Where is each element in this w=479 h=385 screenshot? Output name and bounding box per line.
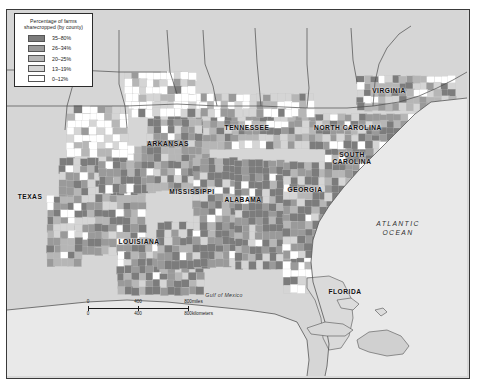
county-cell: [154, 147, 162, 155]
label-line: CAROLINA: [333, 158, 372, 165]
map-label-mississippi: MISSISSIPPI: [169, 188, 214, 195]
county-cell: [201, 108, 209, 116]
county-cell: [165, 253, 173, 262]
map-label-florida: FLORIDA: [328, 288, 361, 295]
label-line: FLORIDA: [328, 288, 361, 295]
label-line: TENNESSEE: [225, 124, 270, 131]
county-cell: [116, 209, 124, 217]
county-cell: [66, 172, 74, 180]
county-cell: [108, 224, 116, 232]
county-cell: [161, 126, 169, 134]
county-cell: [315, 134, 323, 142]
county-cell: [290, 277, 298, 285]
county-cell: [275, 261, 283, 269]
county-cell: [113, 168, 121, 177]
county-cell: [298, 221, 306, 229]
county-cell: [405, 82, 413, 90]
county-cell: [104, 114, 112, 122]
county-cell: [118, 286, 126, 294]
scale-tick-label: 400: [134, 311, 142, 316]
county-cell: [322, 134, 330, 142]
county-cell: [172, 252, 180, 261]
scale-tick-label: 0: [87, 299, 90, 304]
county-cell: [95, 202, 103, 210]
county-cell: [139, 79, 147, 87]
county-cell: [271, 94, 279, 102]
county-cell: [311, 214, 319, 222]
county-cell: [104, 135, 112, 143]
county-cell: [164, 221, 172, 230]
county-cell: [105, 128, 113, 136]
county-cell: [255, 232, 263, 240]
county-cell: [74, 259, 82, 267]
county-cell: [104, 121, 112, 129]
scale-unit-kilometers: kilometers: [192, 311, 213, 316]
label-line: LOUISIANA: [118, 238, 159, 245]
county-cell: [358, 142, 366, 150]
county-cell: [241, 261, 249, 269]
county-cell: [160, 288, 168, 296]
county-cell: [119, 185, 127, 194]
county-cell: [134, 176, 142, 185]
label-line: Gulf of Mexico: [205, 292, 242, 298]
county-cell: [87, 246, 95, 254]
county-cell: [153, 119, 161, 127]
county-cell: [130, 202, 138, 210]
county-cell: [294, 141, 302, 149]
county-cell: [174, 175, 182, 183]
county-cell: [312, 192, 320, 200]
county-cell: [95, 217, 103, 225]
county-cell: [235, 253, 243, 261]
county-cell: [67, 188, 75, 196]
county-cell: [222, 172, 230, 180]
county-cell: [130, 224, 138, 232]
legend-entry: 35–80%: [18, 33, 89, 43]
map-label-georgia: GEORGIA: [288, 186, 323, 193]
county-cell: [229, 94, 237, 102]
county-cell: [188, 147, 196, 155]
county-cell: [75, 237, 83, 245]
county-cell: [60, 210, 68, 218]
county-cell: [131, 272, 139, 280]
label-line: ARKANSAS: [147, 140, 189, 147]
county-cell: [195, 126, 203, 134]
county-cell: [53, 216, 61, 224]
county-cell: [281, 127, 289, 135]
county-cell: [167, 280, 175, 288]
county-cell: [248, 254, 256, 262]
county-cell: [164, 237, 172, 246]
county-cell: [147, 148, 155, 156]
county-cell: [249, 109, 257, 117]
county-cell: [304, 243, 312, 251]
county-cell: [175, 272, 183, 280]
county-cell: [241, 181, 249, 189]
county-cell: [345, 170, 353, 178]
county-cell: [275, 195, 283, 203]
county-cell: [290, 206, 298, 214]
county-cell: [171, 261, 179, 270]
legend-entry: 20–25%: [18, 54, 89, 64]
county-cell: [325, 155, 333, 163]
county-cell: [214, 101, 222, 109]
county-cell: [262, 181, 270, 189]
county-cell: [297, 285, 305, 293]
county-cell: [138, 209, 146, 217]
county-cell: [312, 169, 320, 177]
county-cell: [181, 161, 189, 169]
county-cell: [228, 109, 236, 117]
county-cell: [89, 127, 97, 135]
county-cell: [203, 121, 211, 129]
county-cell: [298, 214, 306, 222]
county-cell: [145, 266, 153, 274]
county-cell: [241, 167, 249, 175]
county-cell: [193, 244, 201, 252]
county-cell: [88, 179, 96, 187]
county-cell: [75, 217, 83, 225]
county-cell: [173, 237, 181, 246]
legend-swatch: [28, 35, 45, 42]
county-cell: [145, 109, 153, 117]
county-cell: [81, 148, 89, 156]
label-line: GEORGIA: [288, 186, 323, 193]
county-cell: [67, 210, 75, 218]
county-cell: [329, 141, 337, 149]
